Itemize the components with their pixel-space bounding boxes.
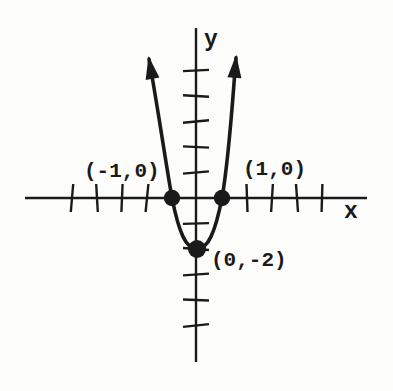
y-axis-tick (183, 146, 209, 147)
marked-point-dot (188, 240, 206, 258)
y-axis-tick (183, 95, 209, 97)
parabola-figure: y x (-1,0) (1,0) (0,-2) (0, 0, 393, 391)
x-axis-label: x (344, 201, 358, 224)
y-axis-tick (183, 274, 209, 276)
marked-point-dot (214, 190, 230, 206)
point-label-vertex: (0,-2) (211, 250, 287, 271)
x-axis-tick (146, 184, 149, 212)
x-axis-tick (322, 184, 323, 212)
x-axis-tick (247, 184, 248, 212)
x-axis-tick (296, 184, 298, 212)
y-axis-label: y (204, 29, 218, 52)
x-axis-tick (121, 184, 122, 212)
y-axis-tick (183, 223, 209, 224)
x-axis-tick (271, 184, 273, 212)
x-axis-tick (96, 184, 98, 212)
point-label-right-intercept: (1,0) (243, 159, 306, 180)
marked-point-dot (164, 190, 180, 206)
y-axis-tick (183, 300, 209, 301)
parabola-curve (149, 58, 236, 249)
point-label-left-intercept: (-1,0) (84, 161, 160, 182)
y-axis-tick (183, 120, 209, 122)
y-axis-tick (183, 324, 209, 327)
coordinate-plane-plot (0, 0, 393, 391)
x-axis-tick (71, 184, 73, 212)
y-axis-tick (183, 171, 209, 173)
y-axis-tick (183, 70, 209, 71)
